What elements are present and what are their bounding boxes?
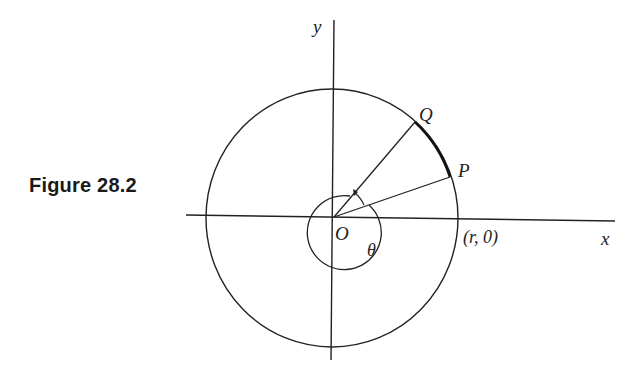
label-q: Q (419, 104, 433, 125)
label-r0: (r, 0) (463, 227, 498, 248)
y-axis (331, 20, 334, 360)
x-axis (186, 215, 615, 221)
angle-arc-small (355, 193, 364, 205)
arc-pq (415, 122, 450, 177)
label-origin: O (335, 223, 349, 244)
label-x: x (600, 228, 610, 249)
unit-circle-diagram: y x Q P O θ (r, 0) (0, 0, 642, 370)
label-p: P (457, 160, 470, 181)
label-theta: θ (367, 240, 376, 260)
label-y: y (311, 16, 322, 37)
